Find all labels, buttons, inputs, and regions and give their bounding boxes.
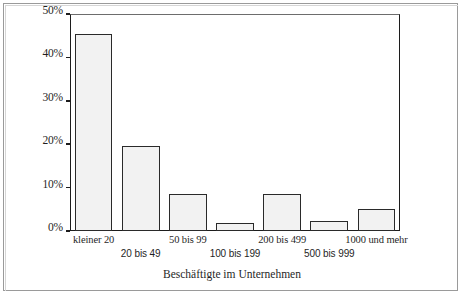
bar bbox=[358, 209, 396, 231]
bar bbox=[263, 194, 301, 231]
y-axis-tick-label: 30% bbox=[43, 92, 63, 104]
bar bbox=[75, 34, 113, 231]
bar bbox=[122, 146, 160, 231]
y-axis-tick-mark bbox=[66, 57, 70, 59]
y-axis-tick-label: 20% bbox=[43, 135, 63, 147]
bar bbox=[169, 194, 207, 231]
y-axis-tick-mark bbox=[66, 13, 70, 15]
y-axis-tick-label: 50% bbox=[43, 5, 63, 17]
bar bbox=[310, 221, 348, 231]
x-axis-tick-label: 1000 und mehr bbox=[345, 234, 407, 245]
x-axis-tick-label: 500 bis 999 bbox=[304, 248, 355, 259]
y-axis-tick-mark bbox=[66, 187, 70, 189]
bar bbox=[216, 223, 254, 231]
y-axis-tick-label: 10% bbox=[43, 179, 63, 191]
x-axis-tick-label: 200 bis 499 bbox=[258, 234, 306, 245]
x-axis-tick-label: 100 bis 199 bbox=[210, 248, 261, 259]
plot-frame bbox=[70, 14, 400, 231]
y-axis-tick-label: 0% bbox=[48, 222, 63, 234]
x-axis-title: Beschäftigte im Unternehmen bbox=[0, 268, 464, 281]
figure: 0%10%20%30%40%50% kleiner 2020 bis 4950 … bbox=[0, 0, 464, 301]
y-axis-tick-mark bbox=[66, 230, 70, 232]
y-axis-tick-mark bbox=[66, 143, 70, 145]
x-axis-tick-label: 20 bis 49 bbox=[121, 248, 161, 259]
x-axis-tick-label: kleiner 20 bbox=[73, 234, 114, 245]
y-axis-tick-mark bbox=[66, 100, 70, 102]
x-axis-tick-label: 50 bis 99 bbox=[169, 234, 207, 245]
y-axis-tick-label: 40% bbox=[43, 48, 63, 60]
plot-area: 0%10%20%30%40%50% bbox=[70, 14, 400, 231]
